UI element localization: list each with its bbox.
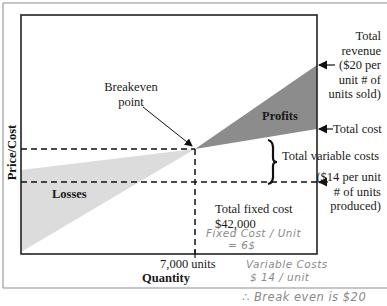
variable-cost-label-rest: ($14 per unit # of units produced)	[301, 170, 381, 214]
handwritten-variable-value: $ 14 / unit	[250, 271, 309, 283]
revenue-label-line1: Total	[311, 29, 381, 44]
breakeven-arrow	[143, 107, 192, 146]
variable-cost-label-line1: Total variable costs	[282, 149, 379, 164]
profits-label: Profits	[262, 109, 298, 124]
revenue-label-line2: revenue	[311, 44, 381, 59]
variable-cost-brace	[268, 140, 277, 184]
x-axis-label: Quantity	[142, 271, 190, 286]
fixed-cost-label-line1: Total fixed cost	[215, 202, 293, 217]
total-cost-label: Total cost	[333, 122, 382, 137]
revenue-label-line5: units sold)	[311, 87, 381, 102]
breakeven-chart: Price/Cost Breakeven point Profits Losse…	[0, 0, 387, 306]
breakeven-label-line1: Breakeven	[96, 80, 166, 95]
losses-label: Losses	[52, 187, 87, 202]
variable-cost-label-line4: produced)	[301, 199, 381, 214]
y-axis-label: Price/Cost	[5, 113, 20, 193]
revenue-label: Total revenue ($20 per unit # of units s…	[311, 29, 381, 102]
losses-region	[21, 149, 195, 252]
x-tick-label: 7,000 units	[160, 257, 216, 272]
variable-cost-label-line2: ($14 per unit	[301, 170, 381, 185]
handwritten-fixed-per-unit-value: = 6$	[228, 239, 256, 251]
handwritten-fixed-per-unit: Fixed Cost / Unit	[206, 227, 301, 239]
handwritten-breakeven-note: ∴ Break even is $20	[242, 290, 366, 304]
variable-cost-label-line3: # of units	[301, 185, 381, 200]
handwritten-variable: Variable Costs	[246, 258, 328, 270]
breakeven-label-line2: point	[96, 95, 166, 110]
profits-region	[195, 65, 317, 149]
breakeven-label: Breakeven point	[96, 80, 166, 109]
revenue-label-line3: ($20 per	[311, 58, 381, 73]
revenue-label-line4: unit # of	[311, 73, 381, 88]
